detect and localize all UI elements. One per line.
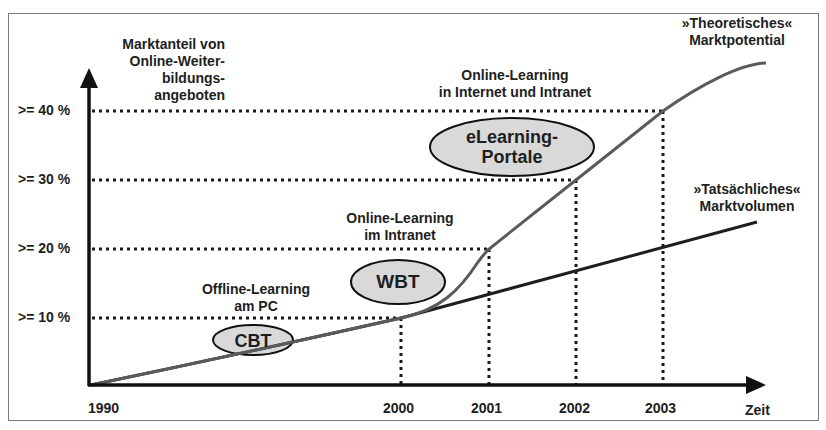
y-tick-30: >= 30 % — [18, 171, 70, 188]
label-line: am PC — [185, 298, 327, 315]
phase-intranet-label: Online-Learning im Intranet — [330, 210, 470, 244]
label-line: in Internet und Intranet — [415, 84, 615, 101]
phase-offline-label: Offline-Learning am PC — [185, 281, 327, 315]
wbt-badge: WBT — [351, 260, 445, 304]
y-axis-title-line: bildungs- — [120, 70, 225, 87]
label-line: »Theoretisches« — [672, 15, 802, 32]
x-axis-arrow-icon — [746, 376, 766, 394]
x-tick-2000: 2000 — [383, 400, 414, 417]
y-axis-title: Marktanteil von Online-Weiter- bildungs-… — [120, 36, 225, 104]
y-tick-20: >= 20 % — [18, 240, 70, 257]
elearning-portale-badge: eLearning- Portale — [430, 118, 594, 176]
x-tick-2002: 2002 — [559, 400, 590, 417]
label-line: Online-Learning — [415, 67, 615, 84]
x-axis-title: Zeit — [745, 402, 770, 419]
y-axis-title-line: angeboten — [120, 87, 225, 104]
label-line: »Tatsächliches« — [682, 181, 812, 198]
theoretical-potential-label: »Theoretisches« Marktpotential — [672, 15, 802, 49]
y-tick-40: >= 40 % — [18, 102, 70, 119]
phase-internet-label: Online-Learning in Internet und Intranet — [415, 67, 615, 101]
x-tick-2003: 2003 — [645, 400, 676, 417]
y-axis-title-line: Marktanteil von — [120, 36, 225, 53]
label-line: im Intranet — [330, 227, 470, 244]
label-line: Marktpotential — [672, 32, 802, 49]
label-line: Marktvolumen — [682, 198, 812, 215]
y-axis-title-line: Online-Weiter- — [120, 53, 225, 70]
badge-line: Portale — [481, 147, 542, 167]
badge-line: eLearning- — [466, 127, 558, 147]
x-tick-2001: 2001 — [471, 400, 502, 417]
actual-volume-label: »Tatsächliches« Marktvolumen — [682, 181, 812, 215]
x-tick-1990: 1990 — [88, 400, 119, 417]
cbt-badge: CBT — [213, 326, 293, 356]
y-tick-10: >= 10 % — [18, 309, 70, 326]
y-axis-arrow-icon — [80, 68, 98, 88]
label-line: Offline-Learning — [185, 281, 327, 298]
label-line: Online-Learning — [330, 210, 470, 227]
